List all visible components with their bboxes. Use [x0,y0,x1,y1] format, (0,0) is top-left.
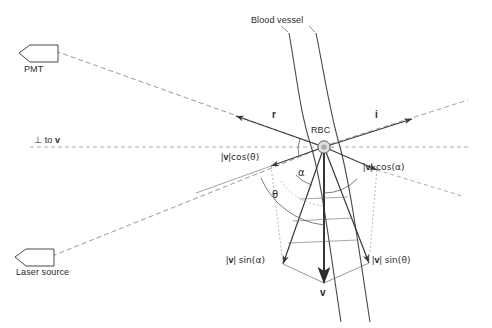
construction-lines [196,166,462,283]
laser-source-device[interactable] [15,249,54,266]
pmt-body[interactable] [19,45,58,62]
pmt-detector[interactable] [19,45,58,62]
incident-beam-extension [330,100,468,144]
laser-source-body[interactable] [15,249,54,266]
v-sin-theta-expr: sin(θ) [385,255,411,265]
v-sin-alpha-bar-right: | [234,255,236,265]
v-cos-theta-expr: cos(θ) [231,152,259,162]
v-sin-alpha-expr: sin(α) [239,255,265,265]
v-sin-theta-bar-right: | [380,255,382,265]
doppler-diagram-svg [0,0,492,328]
arc-theta [261,178,324,225]
vector-i [324,119,412,147]
v-sin-alpha-label: |v| sin(α) [226,256,265,265]
rbc-inner [321,144,326,149]
v-cos-alpha-expr: ·cos(α) [373,162,405,172]
laser-beam-path [52,147,324,256]
blood-vessel-label: Blood vessel [251,16,303,25]
angle-alpha-label: α [298,168,305,178]
vector-r-label: r [272,110,276,120]
perpendicular-label: ⊥ to v [34,136,60,145]
angle-theta-label: θ [272,190,278,200]
vector-v-label: v [320,288,326,298]
rbc-cell [318,141,330,153]
rbc-label: RBC [311,126,330,135]
arc-r-axis [298,139,300,156]
perpendicular-v: v [55,135,60,145]
perpendicular-symbol-text: ⊥ to [34,135,55,145]
v-cos-theta-label: |v|cos(θ) [221,153,259,162]
v-cos-alpha-label: |v|·cos(α) [363,163,405,172]
pmt-label: PMT [24,65,43,74]
laser-source-label: Laser source [16,268,69,277]
v-sin-theta-label: |v| sin(θ) [372,256,411,265]
figure-canvas: Blood vessel RBC PMT Laser source ⊥ to v… [0,0,492,328]
arc-theta-helper [281,181,324,206]
incident-beam [52,100,468,256]
blood-vessel-leaders [281,26,315,32]
vector-i-label: i [375,110,378,120]
